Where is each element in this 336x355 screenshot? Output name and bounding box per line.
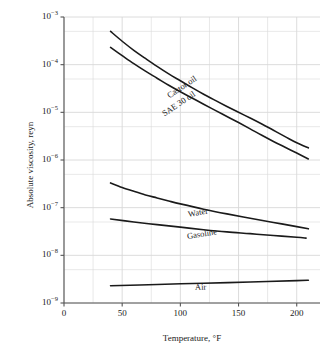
x-tick-label: 50 — [102, 309, 142, 318]
x-tick-label: 100 — [160, 309, 200, 318]
viscosity-temperature-chart: 10−310−410−510−610−710−810−9 05010015020… — [0, 0, 336, 355]
x-tick-label: 0 — [44, 309, 84, 318]
x-tick-label: 200 — [277, 309, 317, 318]
y-tick-label: 10−9 — [22, 298, 58, 307]
axis-lines — [61, 17, 321, 307]
y-tick-label: 10−3 — [22, 12, 58, 21]
y-axis-title: Absolute viscosity, reyn — [25, 95, 35, 235]
y-tick-label: 10−4 — [22, 60, 58, 69]
curve-label-air: Air — [195, 283, 207, 292]
x-tick-label: 150 — [219, 309, 259, 318]
x-axis-title: Temperature, °F — [64, 333, 320, 343]
y-tick-label: 10−8 — [22, 250, 58, 259]
gridlines — [64, 17, 320, 303]
